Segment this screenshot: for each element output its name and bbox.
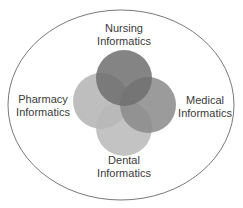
dental-informatics-label: Dental Informatics: [94, 154, 154, 180]
nursing-circle: [96, 50, 152, 106]
nursing-label-line2: Informatics: [94, 35, 154, 48]
nursing-informatics-label: Nursing Informatics: [94, 22, 154, 48]
medical-label-line2: Informatics: [174, 107, 236, 120]
dental-label-line1: Dental: [94, 154, 154, 167]
dental-label-line2: Informatics: [94, 167, 154, 180]
medical-label-line1: Medical: [174, 94, 236, 107]
pharmacy-informatics-label: Pharmacy Informatics: [10, 93, 76, 119]
medical-informatics-label: Medical Informatics: [174, 94, 236, 120]
informatics-venn-diagram: Nursing Informatics Pharmacy Informatics…: [0, 0, 243, 208]
pharmacy-label-line1: Pharmacy: [10, 93, 76, 106]
pharmacy-label-line2: Informatics: [10, 106, 76, 119]
nursing-label-line1: Nursing: [94, 22, 154, 35]
